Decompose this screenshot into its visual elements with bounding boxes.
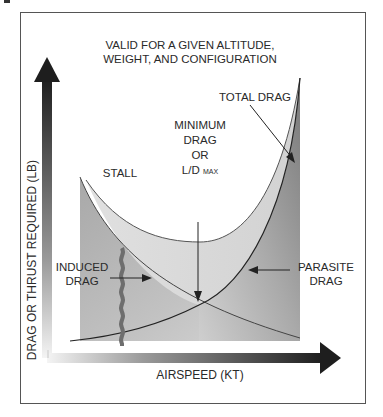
parasite-drag-label: PARASITE DRAG <box>291 260 361 288</box>
stall-label: STALL <box>95 166 145 180</box>
minimum-drag-label: MINIMUM DRAG OR L/D MAX <box>160 118 240 179</box>
title-line-2: WEIGHT, AND CONFIGURATION <box>60 52 320 66</box>
ld-max-label: L/D MAX <box>160 163 240 179</box>
minimum-label-line-1: MINIMUM <box>160 118 240 133</box>
stall-line <box>121 248 123 346</box>
title-line-1: VALID FOR A GIVEN ALTITUDE, <box>60 38 320 52</box>
parasite-label-line-2: DRAG <box>291 274 361 288</box>
ld-subscript: MAX <box>203 168 218 175</box>
total-drag-label: TOTAL DRAG <box>205 90 305 104</box>
minimum-label-line-2: DRAG <box>160 133 240 148</box>
induced-label-line-2: DRAG <box>52 274 112 288</box>
chart-title: VALID FOR A GIVEN ALTITUDE, WEIGHT, AND … <box>60 38 320 66</box>
x-axis-label: AIRSPEED (KT) <box>120 368 280 382</box>
minimum-label-line-3: OR <box>160 148 240 163</box>
y-axis-label: DRAG OR THRUST REQUIRED (LB) <box>25 140 39 380</box>
ld-label: L/D <box>182 164 200 176</box>
induced-label-line-1: INDUCED <box>52 260 112 274</box>
parasite-label-line-1: PARASITE <box>291 260 361 274</box>
induced-drag-label: INDUCED DRAG <box>52 260 112 288</box>
